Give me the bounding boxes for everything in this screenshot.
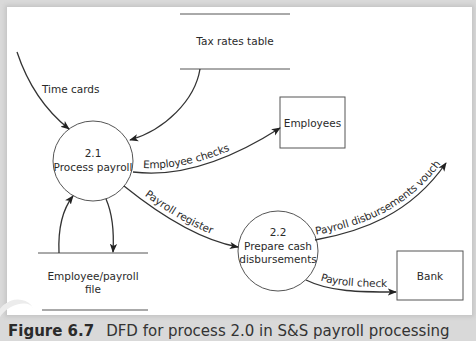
flow-label-time-cards: Time cards: [41, 83, 100, 95]
data-store-label-line2: file: [85, 283, 101, 295]
process-number: 2.2: [270, 226, 287, 238]
entity-employees: Employees: [280, 97, 345, 148]
flow-label-employee-checks: Employee checks: [143, 141, 231, 170]
process-name-line1: Prepare cash: [244, 240, 312, 252]
process-name: Process payroll: [54, 161, 133, 173]
data-store-label: Tax rates table: [195, 35, 273, 47]
flow-label-payroll-register: Payroll register: [143, 187, 216, 236]
data-store-employee-payroll-file: Employee/payroll file: [38, 253, 148, 310]
flow-process-to-file-arrow: [106, 199, 113, 252]
process-name-line2: disbursements: [239, 253, 317, 265]
entity-label: Employees: [284, 117, 341, 129]
dfd-diagram: Tax rates table Employee/payroll file 2.…: [0, 0, 476, 341]
figure-number: Figure 6.7: [8, 322, 94, 340]
figure-caption: Figure 6.7DFD for process 2.0 in S&S pay…: [8, 322, 450, 340]
flow-tax-rates-arrow: [130, 69, 200, 140]
figure-caption-text: DFD for process 2.0 in S&S payroll proce…: [106, 322, 449, 340]
process-number: 2.1: [85, 147, 102, 159]
data-store-tax-rates-table: Tax rates table: [180, 14, 290, 69]
process-2-1: 2.1 Process payroll: [53, 121, 133, 201]
entity-bank: Bank: [397, 251, 463, 300]
entity-label: Bank: [417, 270, 444, 282]
data-store-label-line1: Employee/payroll: [47, 270, 138, 282]
flow-label-payroll-check: Payroll check: [320, 271, 388, 289]
flow-file-to-process-arrow: [59, 196, 73, 253]
process-2-2: 2.2 Prepare cash disbursements: [238, 211, 318, 291]
